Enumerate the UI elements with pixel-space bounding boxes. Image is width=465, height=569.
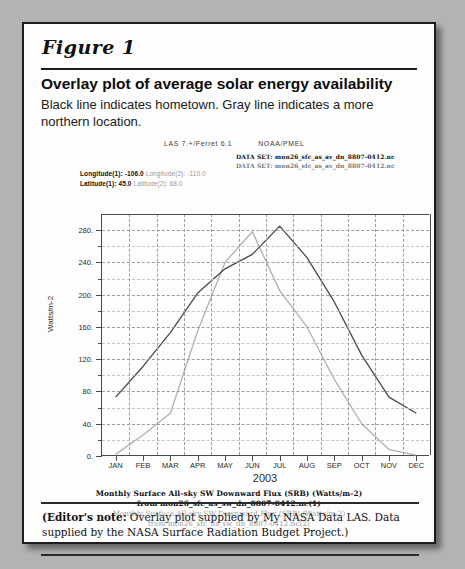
- plot-software-name: LAS 7.+/Ferret 6.1: [164, 140, 232, 147]
- grid-line-vertical: [239, 214, 240, 455]
- x-axis-label: OCT: [354, 461, 370, 470]
- grid-line-vertical: [266, 214, 267, 455]
- grid-line-vertical: [293, 214, 294, 455]
- y-axis-title: Watts/m-2: [46, 296, 55, 332]
- y-axis-label: 80.: [83, 387, 93, 396]
- grid-line-vertical: [321, 214, 322, 455]
- figure-title: Overlay plot of average solar energy ava…: [41, 74, 421, 93]
- longitude-2-label: Longitude(2):: [146, 170, 186, 177]
- plot-area: LAS 7.+/Ferret 6.1NOAA/PMEL DATA SET: mo…: [24, 132, 434, 522]
- figure-label: Figure 1: [42, 36, 136, 58]
- y-axis-tick: [96, 424, 102, 425]
- y-axis-label: 280.: [78, 226, 93, 235]
- y-axis-tick: [96, 391, 102, 392]
- page-root: Figure 1 Overlay plot of average solar e…: [0, 0, 465, 569]
- longitude-2-value: -110.0: [187, 170, 206, 177]
- legend-series-1-line-1: Monthly Surface All-sky SW Downward Flux…: [24, 489, 434, 499]
- dataset-header: DATA SET: mon26_sfc_as_av_dn_8807-0412.n…: [236, 153, 395, 170]
- chart-plot-frame: 0.40.80.120.160.200.240.280.JANFEBMARAPR…: [101, 214, 429, 456]
- chart-right-border: [430, 214, 431, 455]
- y-axis-label: 0.: [87, 452, 93, 461]
- x-axis-label: APR: [190, 461, 205, 470]
- y-axis-tick: [96, 359, 102, 360]
- x-axis-label: MAR: [162, 461, 179, 470]
- x-axis-title: 2003: [253, 472, 277, 484]
- y-axis-label: 160.: [78, 322, 93, 331]
- dataset-line-1: DATA SET: mon26_sfc_as_av_dn_8807-0412.n…: [236, 153, 395, 162]
- editor-note: (Editor's note: Overlay plot supplied by…: [42, 510, 418, 540]
- latitude-2-label: Latitude(2):: [133, 180, 167, 187]
- x-axis-label: MAY: [217, 461, 233, 470]
- y-axis-label: 240.: [78, 258, 93, 267]
- plot-software-header: LAS 7.+/Ferret 6.1NOAA/PMEL: [164, 140, 304, 147]
- y-axis-tick: [96, 295, 102, 296]
- y-axis-tick: [96, 230, 102, 231]
- figure-box: Figure 1 Overlay plot of average solar e…: [22, 22, 436, 544]
- grid-line-vertical: [375, 214, 376, 455]
- x-axis-label: JUN: [245, 461, 260, 470]
- y-axis-tick: [96, 327, 102, 328]
- grid-line-vertical: [211, 214, 212, 455]
- latitude-2-value: 68.0: [169, 180, 182, 187]
- chart-top-border: [102, 214, 429, 215]
- longitude-1-label: Longitude(1):: [80, 170, 123, 177]
- x-axis-label: FEB: [136, 461, 151, 470]
- latitude-1-label: Latitude(1):: [80, 180, 117, 187]
- note-divider-bottom: [41, 554, 419, 556]
- y-axis-label: 40.: [83, 419, 93, 428]
- coordinates-header: Longitude(1): -106.0 Longitude(2): -110.…: [80, 169, 206, 189]
- grid-line-vertical: [129, 214, 130, 455]
- x-axis-label: JUL: [273, 461, 286, 470]
- y-axis-tick: [96, 262, 102, 263]
- figure-divider: [41, 68, 417, 70]
- x-axis-label: AUG: [299, 461, 315, 470]
- grid-line-vertical: [403, 214, 404, 455]
- grid-line-vertical: [157, 214, 158, 455]
- x-axis-label: NOV: [381, 461, 397, 470]
- figure-subtitle: Black line indicates hometown. Gray line…: [41, 96, 419, 130]
- latitude-row: Latitude(1): 45.0 Latitude(2): 68.0: [80, 179, 206, 189]
- legend-series-1-line-2: from mon26_sfc_as_sw_dn_8807-0412.nc(1): [24, 499, 434, 509]
- longitude-row: Longitude(1): -106.0 Longitude(2): -110.…: [80, 169, 206, 179]
- latitude-1-value: 45.0: [119, 180, 132, 187]
- y-axis-label: 200.: [78, 290, 93, 299]
- note-divider-top: [41, 502, 419, 504]
- y-axis-tick: [96, 456, 102, 457]
- grid-line-vertical: [184, 214, 185, 455]
- grid-line-vertical: [348, 214, 349, 455]
- plot-org-name: NOAA/PMEL: [258, 140, 304, 147]
- dataset-line-2: DATA SET: mon26_sfc_as_av_dn_8807-0412.n…: [236, 162, 395, 171]
- y-axis-label: 120.: [78, 355, 93, 364]
- x-axis-label: DEC: [408, 461, 424, 470]
- x-axis-label: JAN: [109, 461, 123, 470]
- editor-note-prefix: (Editor's note:: [42, 511, 127, 523]
- longitude-1-value: -106.0: [125, 170, 144, 177]
- x-axis-label: SEP: [327, 461, 342, 470]
